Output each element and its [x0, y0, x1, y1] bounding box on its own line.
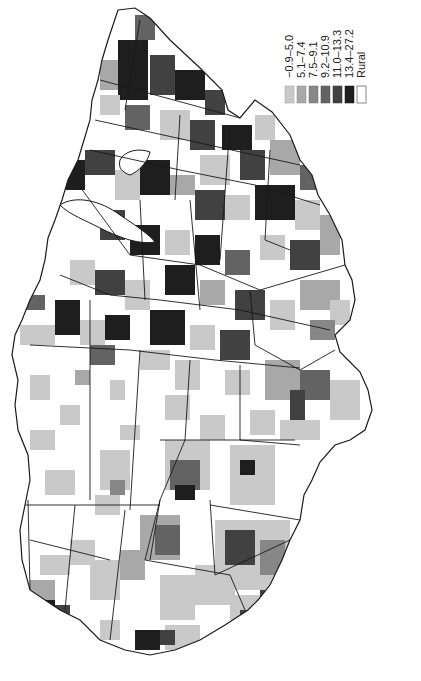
choropleth-map: [0, 0, 421, 681]
map-fill-layer: [0, 0, 421, 681]
